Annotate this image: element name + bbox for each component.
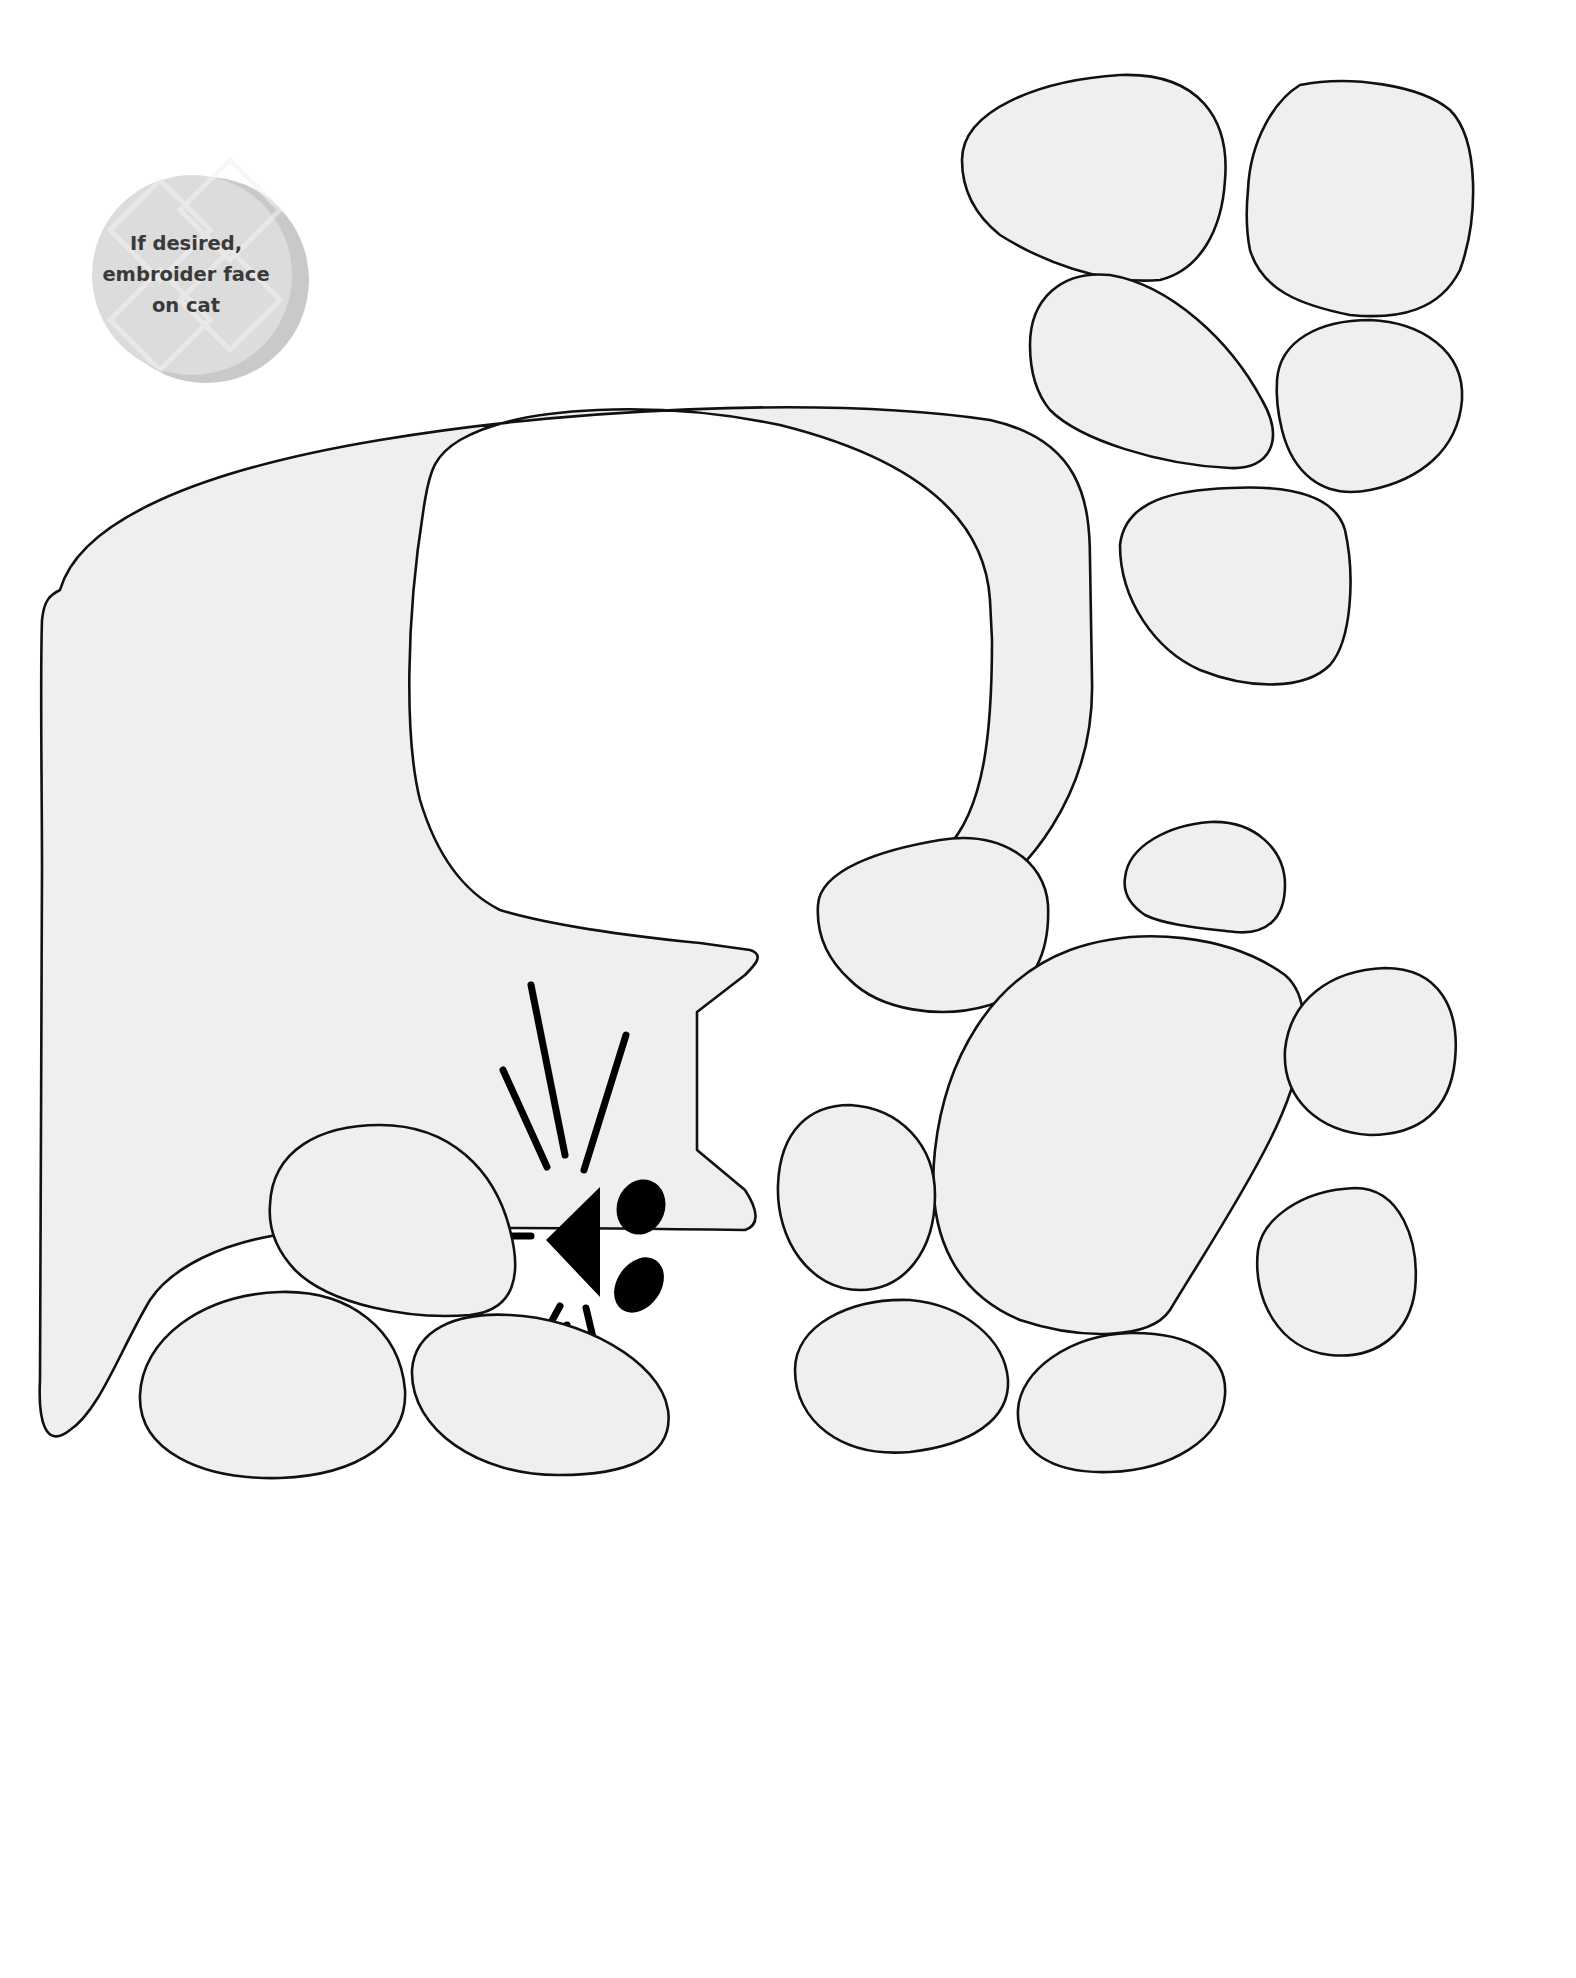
eye-icon	[604, 1248, 674, 1322]
note-line-3: on cat	[86, 290, 286, 321]
paw-print-bottom-right	[778, 822, 1456, 1472]
note-line-2: embroider face	[86, 259, 286, 290]
embroidery-note: If desired, embroider face on cat	[86, 228, 286, 321]
note-line-1: If desired,	[86, 228, 286, 259]
